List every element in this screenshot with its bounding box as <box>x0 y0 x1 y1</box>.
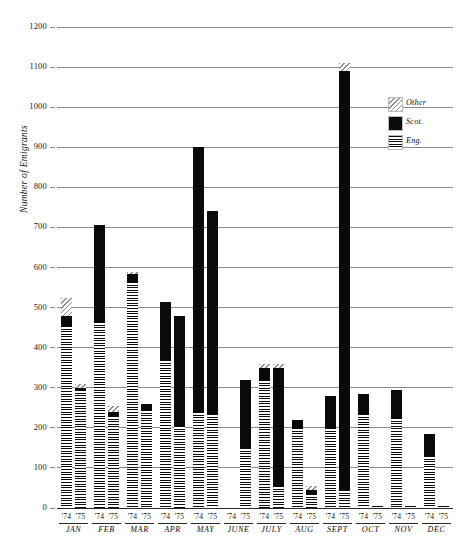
y-tick-label: 1100 <box>13 61 47 71</box>
y-tick-label: 500 <box>13 302 47 312</box>
bar-segment-eng <box>75 390 86 508</box>
x-month-group: AUG <box>290 523 319 547</box>
bar-segment-other <box>127 272 138 274</box>
x-year-label: '75 <box>304 512 320 521</box>
y-tick-label: 0 <box>13 502 47 512</box>
bar-segment-scot <box>108 412 119 416</box>
chart-legend: Other Scot. Eng. <box>388 96 462 153</box>
x-year-label: '75 <box>271 512 287 521</box>
x-year-label: '75 <box>205 512 221 521</box>
x-month-group: FEB <box>92 523 121 547</box>
y-tick-mark <box>50 147 55 148</box>
month-underline <box>92 523 121 524</box>
month-underline <box>356 523 385 524</box>
y-tick-label: 400 <box>13 342 47 352</box>
y-tick-label: 900 <box>13 141 47 151</box>
y-tick-label: 1200 <box>13 21 47 31</box>
bar-segment-other <box>75 384 86 388</box>
y-tick-mark <box>50 227 55 228</box>
bar-segment-scot <box>94 225 105 321</box>
legend-item-eng: Eng. <box>388 134 462 153</box>
bar-segment-eng <box>174 426 185 508</box>
x-month-label: JAN <box>59 525 88 534</box>
x-month-label: AUG <box>290 525 319 534</box>
y-tick-mark <box>50 347 55 348</box>
x-year-label: '75 <box>436 512 452 521</box>
bar-segment-scot <box>207 211 218 413</box>
x-month-group: OCT <box>356 523 385 547</box>
bar-segment-scot <box>358 394 369 414</box>
x-month-group: JAN <box>59 523 88 547</box>
y-tick-label: 600 <box>13 262 47 272</box>
bar-segment-eng <box>306 494 317 508</box>
x-month-group: MAY <box>191 523 220 547</box>
y-tick-mark <box>50 508 55 509</box>
bar-segment-eng <box>207 414 218 508</box>
bar-segment-scot <box>61 316 72 326</box>
bar-segment-eng <box>193 412 204 508</box>
y-tick-mark <box>50 267 55 268</box>
month-underline <box>389 523 418 524</box>
x-month-label: NOV <box>389 525 418 534</box>
y-tick-mark <box>50 187 55 188</box>
bar-segment-eng <box>424 456 435 508</box>
x-year-label: '75 <box>172 512 188 521</box>
month-underline <box>323 523 352 524</box>
bar-segment-eng <box>259 380 270 508</box>
bar-segment-eng <box>94 322 105 508</box>
gridline <box>57 267 453 268</box>
y-tick-label: 700 <box>13 221 47 231</box>
bar-segment-scot <box>127 274 138 282</box>
bar-segment-scot <box>339 71 350 490</box>
bar-segment-scot <box>193 147 204 412</box>
y-tick-label: 200 <box>13 422 47 432</box>
bar-segment-scot <box>259 368 270 380</box>
bar-segment-other <box>273 364 284 368</box>
gridline <box>57 387 453 388</box>
month-underline <box>257 523 286 524</box>
bar-segment-scot <box>273 368 284 486</box>
bar-segment-eng <box>391 418 402 508</box>
emigrants-stacked-bar-chart: Number of Emigrants 01002003004005006007… <box>0 0 467 556</box>
bar-segment-scot <box>424 434 435 456</box>
y-tick-label: 100 <box>13 462 47 472</box>
x-year-label: '75 <box>403 512 419 521</box>
x-axis: '74'75JAN'74'75FEB'74'75MAR'74'75APR'74'… <box>57 508 453 556</box>
x-year-label: '75 <box>337 512 353 521</box>
bar-segment-scot <box>174 316 185 426</box>
x-month-group: NOV <box>389 523 418 547</box>
bar-segment-scot <box>325 396 336 428</box>
x-month-label: OCT <box>356 525 385 534</box>
bar-segment-scot <box>391 390 402 418</box>
bar-segment-eng <box>160 360 171 508</box>
month-underline <box>59 523 88 524</box>
y-tick-mark <box>50 67 55 68</box>
x-month-group: JUNE <box>224 523 253 547</box>
bar-segment-other <box>61 298 72 316</box>
x-month-label: MAY <box>191 525 220 534</box>
x-month-label: SEPT <box>323 525 352 534</box>
x-month-label: DEC <box>422 525 451 534</box>
bar-segment-eng <box>61 326 72 508</box>
x-month-label: MAR <box>125 525 154 534</box>
bar-segment-eng <box>339 490 350 508</box>
bar-segment-scot <box>141 404 152 410</box>
gridline <box>57 307 453 308</box>
y-tick-mark <box>50 387 55 388</box>
bar-segment-eng <box>108 416 119 508</box>
x-month-group: APR <box>158 523 187 547</box>
x-year-label: '75 <box>106 512 122 521</box>
legend-item-other: Other <box>388 96 462 115</box>
x-year-label: '75 <box>370 512 386 521</box>
month-underline <box>125 523 154 524</box>
bar-segment-other <box>108 406 119 412</box>
legend-label-eng: Eng. <box>406 136 422 145</box>
y-tick-label: 1000 <box>13 101 47 111</box>
month-underline <box>290 523 319 524</box>
legend-swatch-eng-icon <box>388 135 403 150</box>
legend-swatch-scot-icon <box>388 116 403 131</box>
gridline <box>57 67 453 68</box>
bar-segment-scot <box>75 388 86 390</box>
y-tick-label: 300 <box>13 382 47 392</box>
bar-segment-eng <box>141 410 152 508</box>
